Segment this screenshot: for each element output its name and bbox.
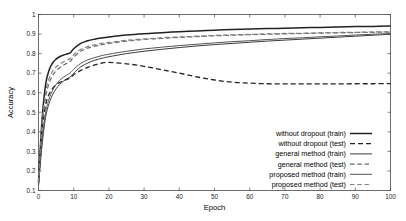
y-tick-label: 0.3 (27, 148, 36, 155)
x-tick-label: 90 (352, 193, 360, 200)
x-tick-label: 50 (211, 193, 219, 200)
x-tick-label: 30 (141, 193, 149, 200)
y-tick-label: 1 (32, 11, 36, 18)
x-tick-label: 100 (385, 193, 396, 200)
series-line-0 (39, 26, 391, 182)
x-tick-label: 0 (37, 193, 41, 200)
x-tick-label: 20 (105, 193, 113, 200)
legend-label-1: without dropout (test) (277, 139, 346, 148)
legend-label-3: general method (test) (278, 160, 346, 169)
legend-label-5: proposed method (test) (272, 180, 346, 189)
legend-label-0: without dropout (train) (275, 129, 346, 138)
y-tick-label: 0.9 (27, 30, 36, 37)
y-tick-label: 0.2 (27, 167, 36, 174)
chart-legend: without dropout (train)without dropout (… (269, 129, 372, 189)
y-tick-label: 0.4 (27, 128, 36, 135)
y-axis-title: Accuracy (6, 87, 15, 118)
y-tick-label: 0.7 (27, 69, 36, 76)
y-tick-label: 0.5 (27, 109, 36, 116)
chart-figure: 0102030405060708090100 0.10.20.30.40.50.… (0, 0, 406, 221)
y-tick-label: 0.8 (27, 50, 36, 57)
x-tick-label: 10 (70, 193, 78, 200)
legend-label-2: general method (train) (275, 149, 346, 158)
x-tick-label: 40 (176, 193, 184, 200)
x-tick-label: 60 (246, 193, 254, 200)
y-tick-label: 0.1 (27, 187, 36, 194)
accuracy-vs-epoch-chart: 0102030405060708090100 0.10.20.30.40.50.… (0, 0, 406, 221)
y-tick-label: 0.6 (27, 89, 36, 96)
x-axis-title: Epoch (204, 203, 226, 212)
x-tick-label: 70 (281, 193, 289, 200)
x-tick-label: 80 (317, 193, 325, 200)
legend-label-4: proposed method (train) (269, 170, 346, 179)
